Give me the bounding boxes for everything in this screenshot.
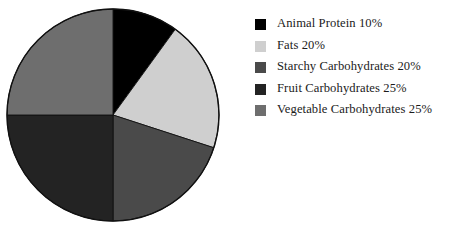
pie-slice <box>7 9 113 115</box>
legend-item: Fruit Carbohydrates 25% <box>255 81 455 103</box>
pie-chart-figure: Animal Protein 10%Fats 20%Starchy Carboh… <box>0 0 458 234</box>
legend-item-label: Animal Protein 10% <box>277 16 382 31</box>
legend-item-label: Vegetable Carbohydrates 25% <box>277 102 432 117</box>
legend-swatch-icon <box>255 105 266 116</box>
pie-slice-group <box>7 9 219 221</box>
legend-swatch-icon <box>255 19 266 30</box>
legend-item-label: Starchy Carbohydrates 20% <box>277 59 421 74</box>
pie-slice <box>7 115 113 221</box>
legend-item: Fats 20% <box>255 38 455 60</box>
legend-swatch-icon <box>255 62 266 73</box>
legend-item-label: Fruit Carbohydrates 25% <box>277 81 407 96</box>
pie-chart-plot-area <box>6 6 222 224</box>
legend-item-label: Fats 20% <box>277 38 325 53</box>
legend-swatch-icon <box>255 41 266 52</box>
chart-legend: Animal Protein 10%Fats 20%Starchy Carboh… <box>255 16 455 124</box>
legend-item: Starchy Carbohydrates 20% <box>255 59 455 81</box>
legend-swatch-icon <box>255 84 266 95</box>
legend-item: Animal Protein 10% <box>255 16 455 38</box>
legend-item: Vegetable Carbohydrates 25% <box>255 102 455 124</box>
pie-chart-svg <box>6 6 222 224</box>
